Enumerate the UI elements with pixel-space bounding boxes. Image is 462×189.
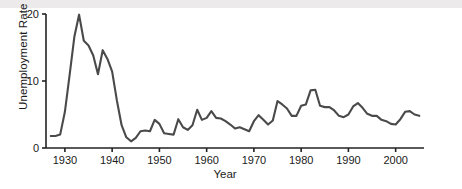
x-tick-label: 1960: [194, 154, 218, 166]
x-tick-label: 1980: [289, 154, 313, 166]
x-axis-label-text: Year: [213, 168, 236, 180]
y-tick-label: 20: [27, 8, 39, 20]
unemployment-rate-chart: Unemployment Rate (%) 01020 193019401950…: [0, 0, 462, 189]
y-tick-label: 0: [33, 142, 39, 154]
y-tick-label: 10: [27, 75, 39, 87]
x-tick-label: 1990: [336, 154, 360, 166]
x-tick-label: 1940: [100, 154, 124, 166]
plot-area: 01020 19301940195019601970198019902000: [0, 0, 462, 189]
x-axis-label: Year: [0, 168, 462, 180]
x-tick-label: 1970: [242, 154, 266, 166]
x-tick-label: 1950: [147, 154, 171, 166]
x-tick-label-group: 19301940195019601970198019902000: [53, 154, 408, 166]
unemployment-line-series: [51, 15, 420, 142]
x-tick-label: 1930: [53, 154, 77, 166]
axes-group: 01020 19301940195019601970198019902000: [27, 8, 424, 166]
x-tick-label: 2000: [383, 154, 407, 166]
y-tick-label-group: 01020: [27, 8, 39, 154]
